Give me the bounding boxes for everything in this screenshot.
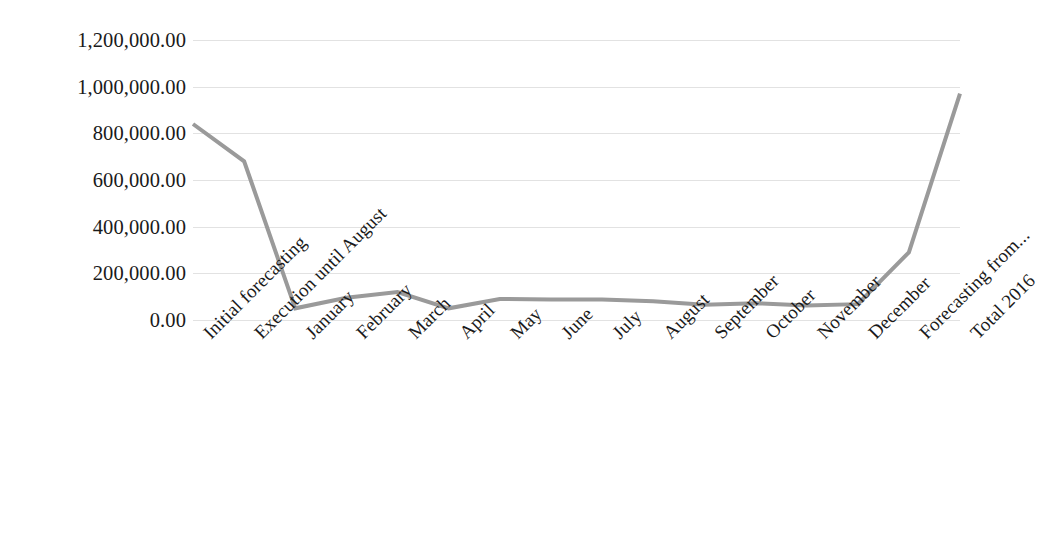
y-tick-label: 400,000.00: [0, 215, 186, 238]
y-tick-label: 0.00: [0, 309, 186, 332]
y-tick-label: 800,000.00: [0, 122, 186, 145]
y-tick-label: 1,000,000.00: [0, 75, 186, 98]
y-axis: 0.00200,000.00400,000.00600,000.00800,00…: [0, 0, 186, 360]
y-tick-label: 200,000.00: [0, 262, 186, 285]
x-axis: Initial forecastingExecution until Augus…: [193, 320, 960, 530]
y-tick-label: 1,200,000.00: [0, 29, 186, 52]
y-tick-label: 600,000.00: [0, 169, 186, 192]
